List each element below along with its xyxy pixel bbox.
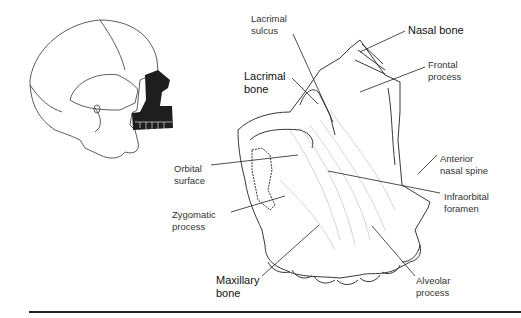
label-anterior-nasal-spine: Anterior nasal spine <box>440 153 488 176</box>
label-zygomatic-process: Zygomatic process <box>172 209 216 232</box>
bottom-rule <box>29 311 521 313</box>
label-frontal-process: Frontal process <box>428 59 461 82</box>
skull-inset <box>30 20 158 158</box>
label-lacrimal-bone: Lacrimal bone <box>244 70 286 96</box>
leader-lines <box>211 31 440 276</box>
label-infraorbital-foramen: Infraorbital foramen <box>444 191 489 214</box>
label-maxillary-bone: Maxillary bone <box>216 274 259 300</box>
label-nasal-bone: Nasal bone <box>408 24 464 37</box>
label-alveolar-process: Alveolar process <box>416 275 450 298</box>
label-orbital-surface: Orbital surface <box>174 163 205 186</box>
label-lacrimal-sulcus: Lacrimal sulcus <box>251 13 287 36</box>
